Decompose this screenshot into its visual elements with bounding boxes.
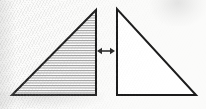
geometry-figure: Two congruent right triangles separated … xyxy=(0,0,206,109)
diagram-canvas: Two congruent right triangles separated … xyxy=(0,0,206,109)
